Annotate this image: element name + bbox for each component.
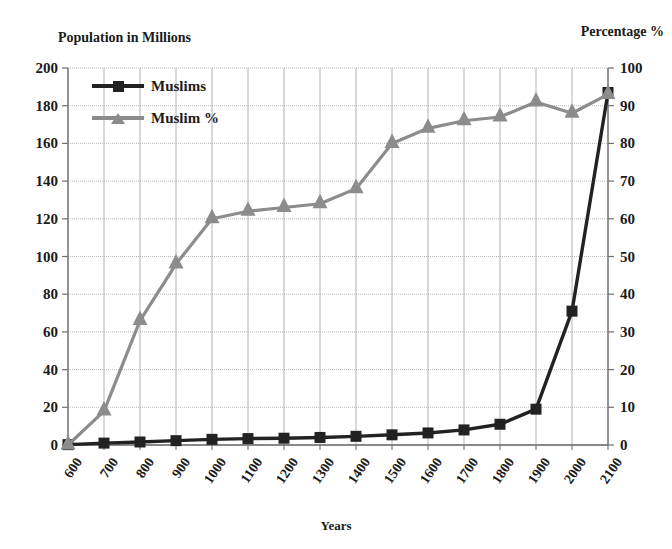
data-point-triangle-marker [97, 401, 112, 416]
data-point-square-marker [207, 434, 218, 445]
series-line [68, 94, 608, 445]
legend-swatch [92, 79, 144, 93]
data-point-triangle-marker [529, 92, 544, 107]
chart-legend: MuslimsMuslim % [92, 78, 219, 126]
y-axis-right-tick-label: 90 [620, 97, 635, 114]
y-axis-right-tick-label: 60 [620, 210, 635, 227]
y-axis-left-tick-label: 200 [36, 60, 59, 77]
data-point-square-marker [135, 436, 146, 447]
data-point-square-marker [531, 404, 542, 415]
square-marker-icon [113, 81, 124, 92]
legend-item[interactable]: Muslims [92, 78, 219, 94]
y-axis-left-tick-label: 120 [36, 210, 59, 227]
y-axis-left-tick-label: 60 [43, 323, 58, 340]
y-axis-right-tick-label: 50 [620, 248, 635, 265]
data-point-square-marker [279, 433, 290, 444]
x-axis-title: Years [0, 518, 672, 534]
y-axis-left-tick-label: 160 [36, 135, 59, 152]
data-point-square-marker [171, 435, 182, 446]
data-point-square-marker [387, 429, 398, 440]
legend-swatch [92, 111, 144, 125]
data-point-triangle-marker [421, 118, 436, 133]
triangle-marker-icon [111, 113, 125, 124]
legend-item[interactable]: Muslim % [92, 110, 219, 126]
chart-container: Population in Millions Percentage % 0204… [0, 0, 672, 549]
y-axis-left-tick-label: 180 [36, 97, 59, 114]
y-axis-left-tick-label: 40 [43, 361, 58, 378]
series-muslim-percent [61, 84, 616, 449]
y-axis-right-tick-label: 40 [620, 286, 635, 303]
y-axis-left-tick-label: 100 [36, 248, 59, 265]
data-point-square-marker [315, 432, 326, 443]
y-axis-right-tick-label: 0 [620, 437, 628, 454]
y-axis-right-tick-label: 20 [620, 361, 635, 378]
data-point-triangle-marker [277, 197, 292, 212]
data-point-triangle-marker [205, 209, 220, 224]
y-axis-right-tick-label: 70 [620, 173, 635, 190]
y-axis-left-tick-label: 80 [43, 286, 58, 303]
data-point-square-marker [459, 424, 470, 435]
data-point-triangle-marker [457, 111, 472, 126]
data-point-square-marker [243, 433, 254, 444]
legend-item-label: Muslims [151, 78, 206, 95]
y-axis-right-tick-label: 80 [620, 135, 635, 152]
y-axis-right-tick-label: 30 [620, 323, 635, 340]
data-point-square-marker [423, 427, 434, 438]
data-point-square-marker [99, 438, 110, 449]
data-point-square-marker [567, 306, 578, 317]
series-muslims [63, 87, 614, 450]
y-axis-right-tick-label: 10 [620, 399, 635, 416]
legend-item-label: Muslim % [151, 110, 219, 127]
data-point-triangle-marker [241, 201, 256, 216]
y-axis-left-tick-label: 140 [36, 173, 59, 190]
y-axis-left-tick-label: 20 [43, 399, 58, 416]
series-line [68, 93, 608, 445]
data-point-square-marker [495, 419, 506, 430]
y-axis-right-tick-label: 100 [620, 60, 643, 77]
y-axis-left-tick-label: 0 [51, 437, 59, 454]
data-point-square-marker [351, 431, 362, 442]
